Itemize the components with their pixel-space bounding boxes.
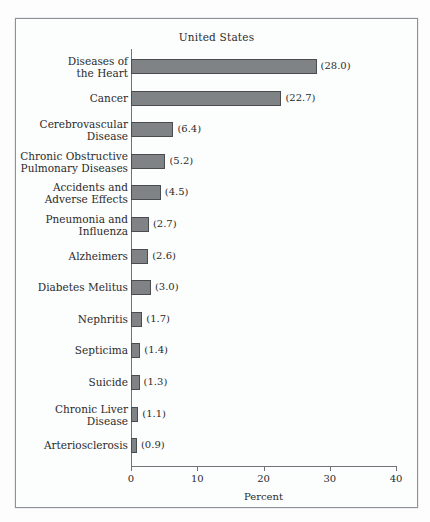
category-label: Diseases of the Heart: [0, 55, 128, 79]
bar: [131, 312, 142, 327]
bar: [131, 91, 281, 106]
bar-value-label: (2.6): [152, 250, 176, 261]
bar-value-label: (1.3): [144, 376, 168, 387]
category-label: Nephritis: [0, 313, 128, 325]
x-tick: [197, 466, 198, 471]
x-tick-label: 20: [257, 473, 270, 484]
bar-value-label: (22.7): [285, 92, 315, 103]
x-tick: [131, 466, 132, 471]
bar-value-label: (5.2): [169, 155, 193, 166]
bar-row: Diabetes Melitus(3.0): [131, 280, 396, 295]
category-label: Alzheimers: [0, 250, 128, 262]
bar: [131, 375, 140, 390]
bar-row: Accidents and Adverse Effects(4.5): [131, 185, 396, 200]
bar-value-label: (1.7): [146, 313, 170, 324]
bar-row: Suicide(1.3): [131, 375, 396, 390]
bar-value-label: (4.5): [165, 186, 189, 197]
bar: [131, 185, 161, 200]
x-tick-label: 30: [323, 473, 336, 484]
bar-row: Alzheimers(2.6): [131, 249, 396, 264]
bar-value-label: (2.7): [153, 218, 177, 229]
bar: [131, 122, 173, 137]
bar-row: Arteriosclerosis(0.9): [131, 438, 396, 453]
plot-area: 010203040 Diseases of the Heart(28.0)Can…: [131, 49, 396, 466]
chart-frame: United States 010203040 Diseases of the …: [15, 18, 418, 508]
bar-row: Diseases of the Heart(28.0): [131, 59, 396, 74]
category-label: Pneumonia and Influenza: [0, 213, 128, 237]
bar-row: Septicima(1.4): [131, 343, 396, 358]
bar: [131, 154, 165, 169]
x-axis-label: Percent: [131, 491, 396, 502]
bar-value-label: (3.0): [155, 281, 179, 292]
chart-title: United States: [16, 31, 417, 43]
x-tick-label: 0: [128, 473, 134, 484]
bar: [131, 407, 138, 422]
bar: [131, 59, 317, 74]
bar: [131, 343, 140, 358]
category-label: Cancer: [0, 92, 128, 104]
bar-row: Nephritis(1.7): [131, 312, 396, 327]
bar-value-label: (6.4): [177, 123, 201, 134]
bar-value-label: (1.1): [142, 408, 166, 419]
category-label: Suicide: [0, 376, 128, 388]
category-label: Chronic Liver Disease: [0, 403, 128, 427]
category-label: Accidents and Adverse Effects: [0, 181, 128, 205]
category-label: Arteriosclerosis: [0, 439, 128, 451]
bar-row: Cerebrovascular Disease(6.4): [131, 122, 396, 137]
bar-row: Chronic Obstructive Pulmonary Diseases(5…: [131, 154, 396, 169]
category-label: Septicima: [0, 344, 128, 356]
category-label: Chronic Obstructive Pulmonary Diseases: [0, 150, 128, 174]
x-tick-label: 10: [191, 473, 204, 484]
x-tick: [396, 466, 397, 471]
bar-value-label: (0.9): [141, 439, 165, 450]
x-tick: [264, 466, 265, 471]
category-label: Cerebrovascular Disease: [0, 118, 128, 142]
bar-row: Cancer(22.7): [131, 91, 396, 106]
chart-page: United States 010203040 Diseases of the …: [0, 0, 430, 522]
x-tick-label: 40: [390, 473, 403, 484]
bar-value-label: (28.0): [321, 60, 351, 71]
bar: [131, 280, 151, 295]
bar-value-label: (1.4): [144, 344, 168, 355]
category-label: Diabetes Melitus: [0, 281, 128, 293]
x-tick: [330, 466, 331, 471]
bar: [131, 217, 149, 232]
bar: [131, 438, 137, 453]
bar: [131, 249, 148, 264]
bar-row: Pneumonia and Influenza(2.7): [131, 217, 396, 232]
bar-row: Chronic Liver Disease(1.1): [131, 407, 396, 422]
